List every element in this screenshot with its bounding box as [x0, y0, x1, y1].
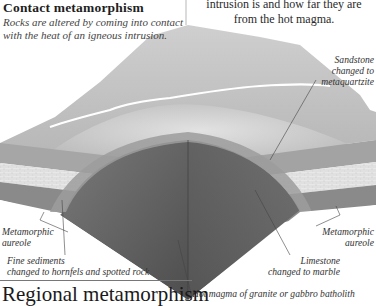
label-sandstone: Sandstone changed to metaquartzite	[290, 54, 374, 87]
intro-text: intrusion is and how far they are from t…	[192, 0, 376, 27]
next-section-heading: Regional metamorphism	[2, 283, 209, 305]
intro-line-1: intrusion is and how far they are	[192, 0, 376, 12]
section-divider	[0, 280, 192, 281]
label-aureole-right: Metamorphic aureole	[300, 226, 374, 248]
section-subtitle: Rocks are altered by coming into contact…	[3, 16, 193, 42]
intro-line-2: from the hot magma.	[192, 12, 376, 27]
label-fine-sediments: Fine sediments changed to hornfels and s…	[7, 255, 149, 277]
label-magma: Hot magma of granite or gabbro batholith	[192, 288, 355, 299]
label-aureole-left: Metamorphic aureole	[2, 226, 54, 248]
section-title: Contact metamorphism	[3, 0, 144, 16]
label-limestone: Limestone changed to marble	[250, 255, 340, 277]
